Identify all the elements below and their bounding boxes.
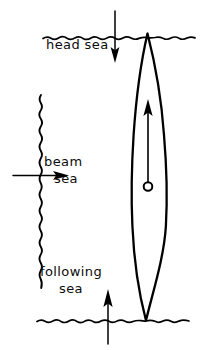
head-sea-label-text: head sea [46,37,109,52]
diagram-canvas [0,0,206,350]
following-sea-label: following sea [40,265,102,295]
ship-sea-direction-diagram: head sea beam sea following sea [0,0,206,350]
following-sea-label-line2: sea [40,282,102,296]
left-sea-surface-wavy-line [39,95,42,288]
following-sea-label-line1: following [40,264,102,279]
bottom-sea-surface-wavy-line [37,320,189,323]
beam-sea-label: beam sea [44,155,82,185]
head-sea-label: head sea [46,38,109,52]
ship-center-of-gravity-circle [144,182,153,191]
beam-sea-label-line2: sea [54,172,82,186]
beam-sea-label-line1: beam [44,154,82,169]
ship-hull-outline [132,34,167,321]
